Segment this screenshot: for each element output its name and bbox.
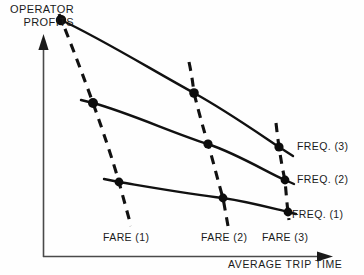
freq-2-curve (81, 100, 294, 184)
fare-1-dashed-curve (59, 14, 131, 226)
chart-plot-area (0, 0, 364, 275)
data-point-markers-group (56, 15, 293, 217)
x-tick-label-fare-3: FARE (3) (262, 231, 308, 244)
data-point-freq2-fare1 (88, 98, 98, 108)
data-point-freq2-fare2 (203, 139, 212, 148)
y-axis-label: OPERATOR PROFITS (2, 3, 74, 29)
data-point-freq1-fare1 (115, 178, 124, 187)
y-axis-label-line-1: OPERATOR (2, 3, 74, 16)
data-point-freq3-fare2 (189, 88, 199, 98)
legend-item-freq-3: FREQ. (3) (297, 140, 348, 153)
fare-3-dashed-curve (276, 123, 289, 220)
freq-1-curve (104, 179, 296, 214)
chart-figure: OPERATOR PROFITS AVERAGE TRIP TIME FREQ.… (0, 0, 364, 275)
data-point-freq3-fare3 (274, 142, 283, 151)
data-point-freq2-fare3 (281, 176, 290, 185)
fare-curves-group (59, 14, 289, 226)
legend-item-freq-1: FREQ. (1) (292, 208, 343, 221)
y-axis-label-line-2: PROFITS (2, 16, 74, 29)
legend-item-freq-2: FREQ. (2) (297, 173, 348, 186)
x-tick-label-fare-2: FARE (2) (201, 231, 247, 244)
axis-group (38, 34, 333, 262)
data-point-freq1-fare2 (219, 194, 228, 203)
x-tick-label-fare-1: FARE (1) (103, 231, 149, 244)
y-axis-arrowhead (38, 34, 48, 50)
x-axis-label: AVERAGE TRIP TIME (228, 258, 342, 271)
freq-3-curve (61, 20, 293, 156)
frequency-curves-group (61, 20, 296, 214)
